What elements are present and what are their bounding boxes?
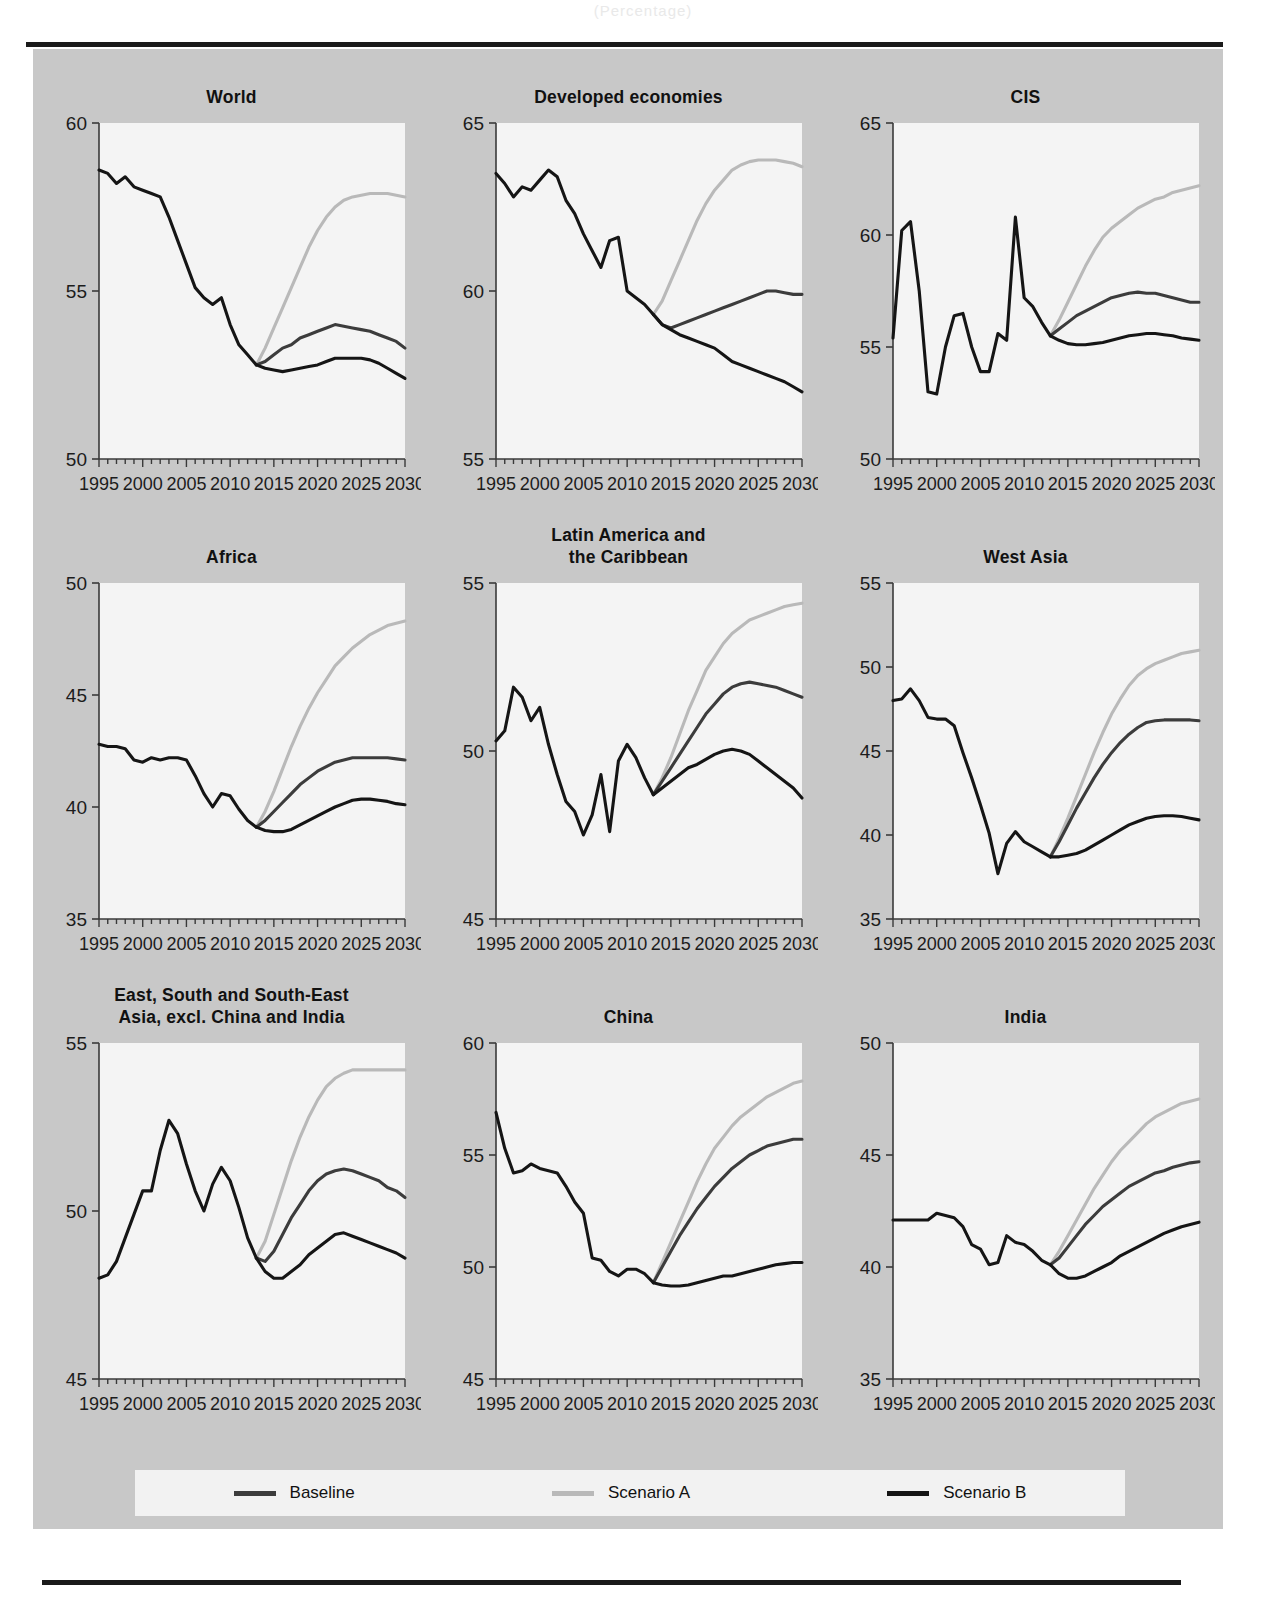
- y-tick-label: 35: [860, 909, 881, 930]
- x-tick-label: 2025: [738, 1394, 778, 1414]
- x-tick-label: 2020: [298, 1394, 338, 1414]
- chart-title: World: [33, 87, 430, 109]
- y-tick-label: 55: [860, 337, 881, 358]
- y-tick-label: 45: [66, 685, 87, 706]
- x-tick-label: 2005: [563, 934, 603, 954]
- plot-area: [893, 583, 1199, 919]
- y-tick-label: 50: [66, 1201, 87, 1222]
- x-tick-label: 2020: [695, 934, 735, 954]
- chart-panel: World50556019952000200520102015202020252…: [33, 55, 430, 515]
- x-tick-label: 2020: [695, 1394, 735, 1414]
- chart-legend: BaselineScenario AScenario B: [135, 1470, 1125, 1516]
- x-tick-label: 2015: [651, 474, 691, 494]
- y-tick-label: 60: [463, 1037, 484, 1054]
- figure-caption: (Percentage): [0, 2, 1286, 19]
- x-tick-label: 2005: [166, 474, 206, 494]
- x-tick-label: 2030: [385, 474, 421, 494]
- chart-panel: East, South and South-EastAsia, excl. Ch…: [33, 975, 430, 1435]
- y-tick-label: 40: [66, 797, 87, 818]
- x-tick-label: 2010: [210, 934, 250, 954]
- chart-plot: 45505519952000200520102015202020252030: [438, 577, 818, 967]
- chart-panel: CIS5055606519952000200520102015202020252…: [827, 55, 1224, 515]
- y-tick-label: 60: [463, 281, 484, 302]
- y-tick-label: 55: [463, 1145, 484, 1166]
- chart-plot: 3540455019952000200520102015202020252030: [41, 577, 421, 967]
- x-tick-label: 2020: [298, 934, 338, 954]
- y-tick-label: 50: [463, 1257, 484, 1278]
- legend-item[interactable]: Scenario A: [552, 1483, 690, 1503]
- x-tick-label: 2010: [1004, 1394, 1044, 1414]
- x-tick-label: 2015: [651, 1394, 691, 1414]
- y-tick-label: 60: [66, 117, 87, 134]
- x-tick-label: 2020: [695, 474, 735, 494]
- y-tick-label: 40: [860, 1257, 881, 1278]
- y-tick-label: 50: [860, 1037, 881, 1054]
- chart-panel: West Asia3540455055199520002005201020152…: [827, 515, 1224, 975]
- x-tick-label: 2010: [607, 934, 647, 954]
- x-tick-label: 2000: [917, 474, 957, 494]
- chart-panel: Latin America andthe Caribbean4550551995…: [430, 515, 827, 975]
- x-tick-label: 2010: [1004, 474, 1044, 494]
- y-tick-label: 45: [463, 909, 484, 930]
- chart-plot: 4550556019952000200520102015202020252030: [438, 1037, 818, 1427]
- x-tick-label: 1995: [79, 474, 119, 494]
- y-tick-label: 65: [463, 117, 484, 134]
- x-tick-label: 2030: [782, 474, 818, 494]
- x-tick-label: 2000: [123, 1394, 163, 1414]
- x-tick-label: 2005: [960, 474, 1000, 494]
- chart-plot: 3540455019952000200520102015202020252030: [835, 1037, 1215, 1427]
- y-tick-label: 45: [66, 1369, 87, 1390]
- x-tick-label: 2030: [1179, 934, 1215, 954]
- x-tick-label: 2005: [563, 1394, 603, 1414]
- top-rule: [26, 42, 1223, 47]
- x-tick-label: 2015: [1048, 1394, 1088, 1414]
- x-tick-label: 1995: [79, 1394, 119, 1414]
- chart-title: Africa: [33, 547, 430, 569]
- x-tick-label: 2010: [1004, 934, 1044, 954]
- x-tick-label: 2025: [341, 934, 381, 954]
- y-tick-label: 35: [66, 909, 87, 930]
- x-tick-label: 2025: [1135, 1394, 1175, 1414]
- y-tick-label: 50: [860, 449, 881, 470]
- chart-title: Latin America andthe Caribbean: [430, 525, 827, 569]
- y-tick-label: 40: [860, 825, 881, 846]
- x-tick-label: 1995: [873, 1394, 913, 1414]
- x-tick-label: 2005: [960, 1394, 1000, 1414]
- chart-panel: India35404550199520002005201020152020202…: [827, 975, 1224, 1435]
- legend-label: Scenario A: [608, 1483, 690, 1503]
- chart-title: West Asia: [827, 547, 1224, 569]
- x-tick-label: 2020: [1092, 934, 1132, 954]
- x-tick-label: 2010: [607, 474, 647, 494]
- y-tick-label: 55: [860, 577, 881, 594]
- x-tick-label: 2025: [738, 474, 778, 494]
- x-tick-label: 2020: [1092, 1394, 1132, 1414]
- chart-plot: 55606519952000200520102015202020252030: [438, 117, 818, 507]
- x-tick-label: 2030: [385, 1394, 421, 1414]
- x-tick-label: 1995: [476, 474, 516, 494]
- x-tick-label: 2025: [341, 474, 381, 494]
- legend-swatch-icon: [234, 1491, 276, 1496]
- x-tick-label: 2005: [563, 474, 603, 494]
- y-tick-label: 35: [860, 1369, 881, 1390]
- x-tick-label: 1995: [873, 474, 913, 494]
- x-tick-label: 2005: [960, 934, 1000, 954]
- chart-grid: World50556019952000200520102015202020252…: [33, 55, 1223, 1435]
- x-tick-label: 2015: [1048, 934, 1088, 954]
- x-tick-label: 2025: [738, 934, 778, 954]
- y-tick-label: 55: [463, 449, 484, 470]
- chart-title: India: [827, 1007, 1224, 1029]
- y-tick-label: 55: [66, 281, 87, 302]
- x-tick-label: 2015: [254, 474, 294, 494]
- x-tick-label: 2005: [166, 1394, 206, 1414]
- x-tick-label: 2010: [210, 474, 250, 494]
- legend-swatch-icon: [552, 1491, 594, 1496]
- x-tick-label: 1995: [79, 934, 119, 954]
- legend-item[interactable]: Baseline: [234, 1483, 355, 1503]
- x-tick-label: 2030: [385, 934, 421, 954]
- x-tick-label: 2000: [520, 474, 560, 494]
- figure-page: (Percentage) World5055601995200020052010…: [0, 0, 1286, 1613]
- x-tick-label: 2000: [123, 474, 163, 494]
- x-tick-label: 2000: [520, 1394, 560, 1414]
- legend-item[interactable]: Scenario B: [887, 1483, 1026, 1503]
- y-tick-label: 65: [860, 117, 881, 134]
